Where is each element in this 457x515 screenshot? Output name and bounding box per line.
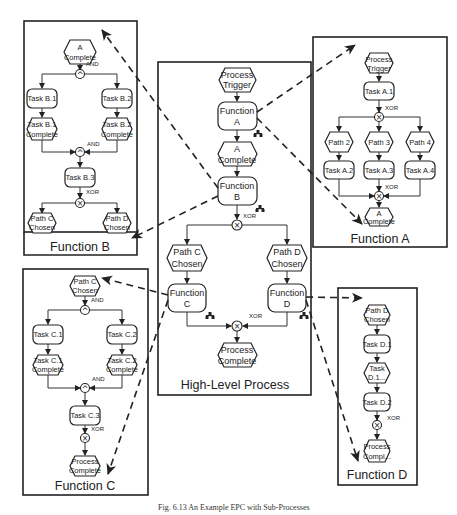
link-function-b-end — [132, 196, 218, 238]
task-d1[interactable]: Task D.1 — [362, 335, 391, 353]
svg-text:Chosen: Chosen — [29, 223, 55, 232]
svg-text:Path D: Path D — [366, 306, 390, 315]
svg-text:Task D.1: Task D.1 — [362, 340, 391, 349]
svg-text:Task A.2: Task A.2 — [325, 166, 353, 175]
svg-text:×: × — [376, 113, 383, 122]
task-a1[interactable]: Task A.1 — [364, 82, 394, 100]
resource-icon — [254, 130, 263, 137]
event-task-d1-done[interactable]: Task D.1... — [364, 363, 390, 383]
task-b1[interactable]: Task B.1 — [27, 89, 57, 108]
svg-text:Function: Function — [220, 106, 255, 116]
task-d2[interactable]: Task D.2 — [362, 393, 391, 411]
svg-text:Trigger: Trigger — [367, 64, 391, 73]
event-process-trigger[interactable]: Process Trigger — [219, 68, 256, 92]
svg-text:Complete: Complete — [26, 130, 58, 139]
task-a4[interactable]: Task A.4 — [405, 161, 435, 179]
event-process-complete[interactable]: Process Compl... — [363, 440, 391, 462]
function-b-node[interactable]: Function B — [218, 177, 257, 205]
xor-split-gate: × — [232, 220, 242, 230]
event-path-d-chosen[interactable]: Path D Chosen — [267, 245, 307, 271]
event-path-3[interactable]: Path 3 — [365, 132, 393, 152]
subprocess-links — [102, 30, 362, 474]
svg-text:AND: AND — [87, 141, 100, 147]
task-c2[interactable]: Task C.2 — [107, 325, 137, 344]
svg-text:Task C.1: Task C.1 — [33, 356, 62, 365]
svg-text:Process: Process — [221, 70, 254, 80]
resource-icon — [206, 312, 215, 319]
function-d-node[interactable]: Function D — [268, 284, 306, 312]
function-a-node[interactable]: Function A — [218, 102, 257, 130]
function-c-node[interactable]: Function C — [168, 284, 206, 312]
svg-text:Function: Function — [220, 181, 255, 191]
function-b-panel: A Complete ^ AND Task B.1 Task B.2 Task … — [24, 21, 137, 233]
svg-text:Path C: Path C — [173, 247, 201, 257]
svg-text:×: × — [376, 192, 383, 201]
svg-text:Task B.2: Task B.2 — [103, 120, 132, 129]
svg-text:D.1...: D.1... — [368, 373, 386, 382]
link-function-d-end — [306, 300, 358, 461]
svg-text:Task C.2: Task C.2 — [107, 356, 136, 365]
svg-text:Complete: Complete — [106, 365, 138, 374]
task-b2[interactable]: Task B.2 — [102, 89, 132, 108]
high-level-panel: Process Trigger Function A A Complete Fu… — [158, 62, 311, 395]
task-b3[interactable]: Task B.3 — [65, 168, 95, 187]
resource-icon — [256, 205, 265, 212]
svg-text:XOR: XOR — [385, 105, 399, 111]
svg-text:B: B — [234, 192, 240, 202]
high-level-title: High-Level Process — [181, 378, 289, 392]
svg-text:C: C — [184, 299, 191, 309]
event-b1-complete[interactable]: Task B.1 Complete — [26, 118, 58, 140]
event-b2-complete[interactable]: Task B.2 Complete — [101, 118, 133, 140]
svg-text:Complete: Complete — [101, 130, 133, 139]
svg-text:AND: AND — [92, 376, 105, 382]
event-process-trigger[interactable]: Process Trigger — [365, 53, 393, 73]
svg-text:Trigger: Trigger — [223, 80, 251, 90]
svg-text:XOR: XOR — [387, 415, 401, 421]
event-a-complete[interactable]: A Complete — [363, 208, 395, 226]
event-c1-complete[interactable]: Task C.1 Complete — [32, 355, 64, 375]
svg-text:Path D: Path D — [273, 247, 301, 257]
task-a2[interactable]: Task A.2 — [324, 161, 354, 179]
event-path-d-chosen[interactable]: Path D Chosen — [364, 305, 390, 325]
svg-text:Task B.1: Task B.1 — [28, 120, 57, 129]
and-split-gate: ^ — [81, 306, 90, 317]
function-b-title: Function B — [50, 240, 110, 254]
task-c1[interactable]: Task C.1 — [33, 325, 63, 344]
task-c3[interactable]: Task C.3 — [70, 406, 100, 425]
svg-text:D: D — [284, 299, 291, 309]
xor-split-gate: × — [76, 199, 85, 209]
event-a-complete[interactable]: A Complete — [218, 142, 257, 166]
xor-gate: × — [373, 421, 382, 431]
event-path-2[interactable]: Path 2 — [325, 132, 353, 152]
svg-text:Chosen: Chosen — [104, 223, 130, 232]
svg-text:Process: Process — [71, 457, 98, 466]
event-path-c-chosen[interactable]: Path C Chosen — [70, 276, 100, 296]
svg-text:Function: Function — [270, 288, 305, 298]
svg-text:Task C.1: Task C.1 — [33, 330, 62, 339]
svg-text:Path D: Path D — [106, 214, 130, 223]
function-c-title: Function C — [55, 479, 115, 493]
svg-text:Function: Function — [170, 288, 205, 298]
svg-text:Process: Process — [221, 345, 254, 355]
figure-caption: Fig. 6.13 An Example EPC with Sub-Proces… — [158, 503, 310, 512]
event-path-c-chosen[interactable]: Path C Chosen — [167, 245, 207, 271]
svg-text:×: × — [234, 322, 241, 331]
svg-text:^: ^ — [77, 71, 84, 80]
svg-text:Chosen: Chosen — [171, 259, 202, 269]
svg-text:Complete: Complete — [69, 466, 101, 475]
task-a3[interactable]: Task A.3 — [364, 161, 394, 179]
svg-text:Path C: Path C — [31, 214, 55, 223]
svg-text:Complete: Complete — [218, 356, 257, 366]
svg-text:Chosen: Chosen — [271, 259, 302, 269]
svg-text:XOR: XOR — [385, 184, 399, 190]
svg-text:Task A.1: Task A.1 — [365, 87, 393, 96]
svg-text:XOR: XOR — [243, 213, 257, 219]
event-process-complete[interactable]: Process Complete — [218, 343, 257, 367]
event-process-complete[interactable]: Process Complete — [69, 456, 101, 476]
function-a-panel: Process Trigger Task A.1 × XOR Path 2 Pa… — [313, 37, 447, 247]
event-path-4[interactable]: Path 4 — [406, 132, 434, 152]
svg-text:AND: AND — [86, 61, 99, 67]
svg-text:XOR: XOR — [91, 426, 105, 432]
link-function-d-start — [306, 297, 362, 298]
event-c2-complete[interactable]: Task C.2 Complete — [106, 355, 138, 375]
